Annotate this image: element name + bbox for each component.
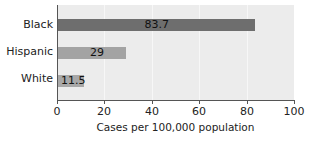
x-tick (247, 100, 248, 104)
x-tick (104, 100, 105, 104)
bar-value-label: 29 (90, 46, 104, 60)
x-tick-label: 100 (284, 105, 305, 118)
x-tick-label: 80 (240, 105, 254, 118)
x-axis (57, 100, 295, 101)
bar-white: 11.5 (58, 75, 84, 87)
bar-black: 83.7 (58, 19, 255, 31)
x-tick-label: 20 (97, 105, 111, 118)
x-axis-label: Cases per 100,000 population (57, 121, 294, 133)
x-tick-label: 40 (145, 105, 159, 118)
bar-value-label: 83.7 (144, 18, 169, 32)
x-tick-label: 60 (192, 105, 206, 118)
bar-hispanic: 29 (58, 47, 126, 59)
x-tick-label: 0 (54, 105, 61, 118)
category-label-hispanic: Hispanic (6, 45, 53, 58)
category-label-black: Black (23, 18, 53, 31)
bar-chart: Cases per 100,000 population 02040608010… (0, 0, 313, 141)
category-label-white: White (21, 72, 53, 85)
x-tick (199, 100, 200, 104)
bar-value-label: 11.5 (61, 74, 86, 88)
x-tick (294, 100, 295, 104)
x-tick (152, 100, 153, 104)
x-tick (57, 100, 58, 104)
